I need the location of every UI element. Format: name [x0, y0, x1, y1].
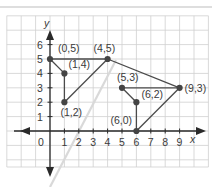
y-axis-arrow-down-icon — [46, 167, 54, 177]
y-tick-label: 5 — [37, 53, 43, 65]
y-axis-label: y — [43, 17, 50, 29]
y-axis-arrow-up-icon — [46, 30, 54, 40]
x-tick-label: 9 — [177, 136, 183, 148]
point-label: (1,4) — [68, 58, 90, 70]
x-tick-label: 7 — [148, 136, 154, 148]
coordinate-plane-figure: (0,5)(1,4)(1,2)(4,5)(5,3)(6,2)(6,0)(9,3)… — [0, 0, 219, 187]
x-tick-label: 1 — [61, 136, 67, 148]
point-marker — [133, 128, 139, 134]
y-tick-label: 3 — [37, 82, 43, 94]
point-label: (1,2) — [60, 106, 82, 118]
x-tick-label: 6 — [133, 136, 139, 148]
point-marker — [177, 85, 183, 91]
point-marker — [119, 85, 125, 91]
x-axis-arrow-right-icon — [196, 127, 206, 135]
point-label: (6,2) — [141, 88, 163, 100]
x-tick-label: 2 — [76, 136, 82, 148]
y-tick-label: 1 — [37, 111, 43, 123]
point-label: (9,3) — [185, 82, 207, 94]
reflection-line — [50, 60, 116, 187]
y-tick-label: 4 — [37, 67, 43, 79]
origin-label: 0 — [38, 136, 44, 148]
x-tick-label: 8 — [162, 136, 168, 148]
point-labels: (0,5)(1,4)(1,2)(4,5)(5,3)(6,2)(6,0)(9,3) — [58, 42, 206, 126]
point-marker — [61, 70, 67, 76]
x-tick-label: 4 — [105, 136, 111, 148]
y-tick-label: 6 — [37, 39, 43, 51]
point-marker — [47, 56, 53, 62]
point-label: (4,5) — [94, 42, 116, 54]
point-marker — [105, 56, 111, 62]
point-marker — [133, 99, 139, 105]
point-label: (0,5) — [58, 42, 80, 54]
y-tick-label: 2 — [37, 96, 43, 108]
point-marker — [61, 99, 67, 105]
x-axis-label: x — [189, 133, 196, 145]
point-label: (6,0) — [110, 114, 132, 126]
x-tick-label: 5 — [119, 136, 125, 148]
point-label: (5,3) — [117, 71, 139, 83]
x-tick-label: 3 — [90, 136, 96, 148]
